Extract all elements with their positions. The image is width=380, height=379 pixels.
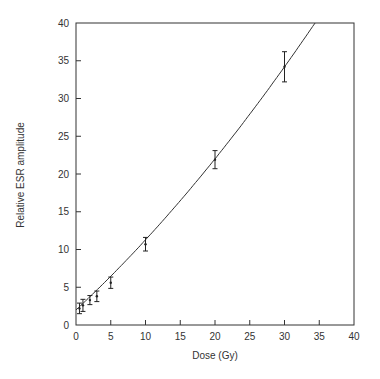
data-point bbox=[87, 296, 92, 305]
plot-border bbox=[76, 23, 354, 325]
data-point bbox=[94, 291, 99, 302]
x-tick-label: 25 bbox=[244, 331, 256, 342]
x-tick-label: 35 bbox=[314, 331, 326, 342]
y-tick-label: 10 bbox=[58, 244, 70, 255]
data-point bbox=[108, 277, 113, 288]
y-tick-label: 30 bbox=[58, 93, 70, 104]
y-tick-label: 20 bbox=[58, 169, 70, 180]
data-point bbox=[213, 151, 218, 169]
chart: 0510152025303540 0510152025303540 Dose (… bbox=[0, 0, 380, 379]
x-tick-label: 10 bbox=[140, 331, 152, 342]
x-tick-label: 40 bbox=[348, 331, 360, 342]
data-points bbox=[77, 52, 287, 314]
y-tick-label: 0 bbox=[63, 320, 69, 331]
y-axis-title: Relative ESR amplitude bbox=[15, 122, 26, 228]
plot-frame bbox=[76, 23, 354, 325]
x-tick-label: 15 bbox=[175, 331, 187, 342]
x-tick-label: 0 bbox=[73, 331, 79, 342]
y-tick-label: 5 bbox=[63, 282, 69, 293]
y-tick-label: 25 bbox=[58, 131, 70, 142]
fit-curve bbox=[76, 23, 315, 310]
x-axis-title: Dose (Gy) bbox=[192, 350, 238, 361]
data-point bbox=[143, 237, 148, 251]
y-axis: 0510152025303540 bbox=[58, 18, 81, 331]
data-point bbox=[282, 52, 287, 82]
y-tick-label: 35 bbox=[58, 55, 70, 66]
y-tick-label: 15 bbox=[58, 206, 70, 217]
x-tick-label: 5 bbox=[108, 331, 114, 342]
y-tick-label: 40 bbox=[58, 18, 70, 29]
x-axis: 0510152025303540 bbox=[73, 320, 360, 342]
x-tick-label: 20 bbox=[209, 331, 221, 342]
x-tick-label: 30 bbox=[279, 331, 291, 342]
